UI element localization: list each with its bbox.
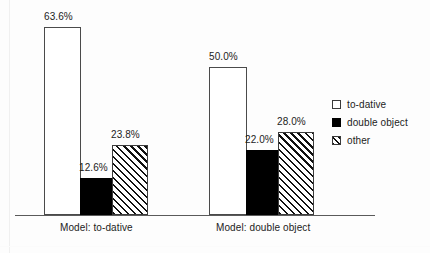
bar-group2-double-object: [246, 150, 279, 215]
bar-label-group1-other: 23.8%: [111, 129, 140, 140]
bar-label-group1-to-dative: 63.6%: [44, 11, 73, 22]
legend: to-dative double object other: [332, 96, 408, 150]
bar-group2-to-dative: [209, 67, 247, 215]
bar-group1-to-dative: [44, 27, 81, 215]
x-axis-label-group2: Model: double object: [216, 222, 310, 233]
legend-label-other: other: [347, 135, 370, 146]
bar-group1-other: [112, 145, 148, 215]
legend-label-double-object: double object: [347, 117, 408, 128]
legend-item-double-object: double object: [332, 114, 408, 130]
bar-label-group2-double-object: 22.0%: [245, 134, 274, 145]
x-axis-baseline: [15, 215, 375, 216]
x-axis-label-group1: Model: to-dative: [60, 222, 133, 233]
legend-label-to-dative: to-dative: [347, 99, 386, 110]
bar-label-group2-other: 28.0%: [277, 116, 306, 127]
bar-label-group1-double-object: 12.6%: [79, 162, 108, 173]
bar-group1-double-object: [80, 178, 113, 215]
bar-label-group2-to-dative: 50.0%: [209, 51, 238, 62]
hatched-square-icon: [332, 136, 341, 145]
bar-group2-other: [278, 132, 314, 215]
black-square-icon: [332, 118, 341, 127]
legend-item-other: other: [332, 132, 408, 148]
white-square-icon: [332, 100, 341, 109]
bar-chart: 63.6% 12.6% 23.8% Model: to-dative 50.0%…: [0, 0, 430, 253]
legend-item-to-dative: to-dative: [332, 96, 408, 112]
